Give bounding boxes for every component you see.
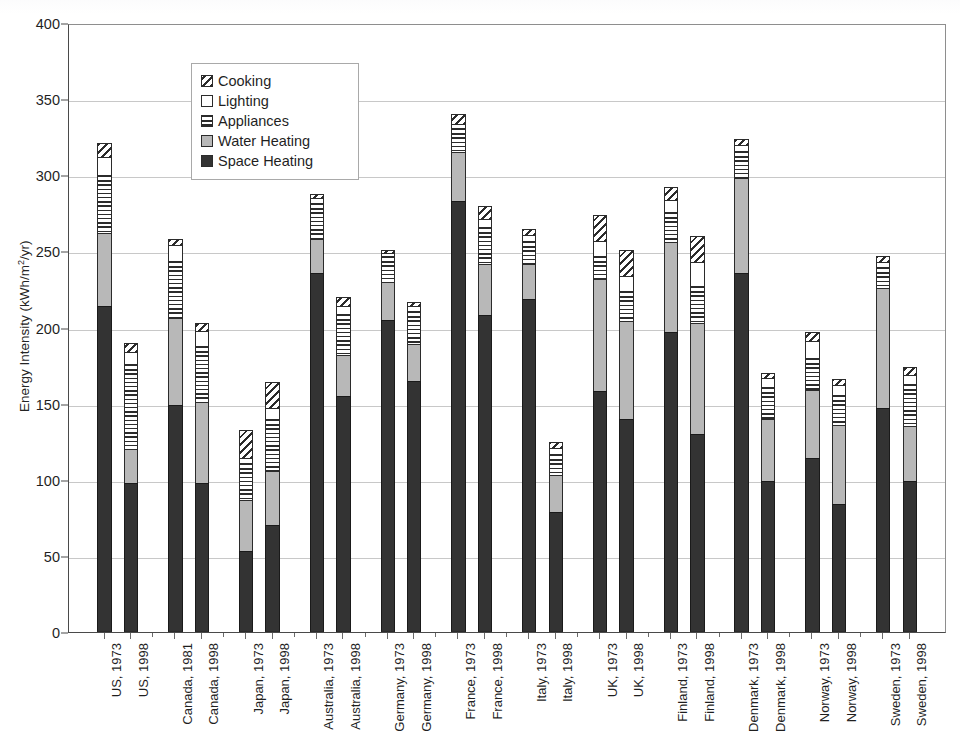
segment-cooking (805, 332, 819, 341)
x-tick-mark (599, 633, 600, 639)
bar-norway-1998[interactable] (832, 379, 846, 632)
segment-appliances (593, 256, 607, 279)
segment-appliances (124, 364, 138, 449)
segment-cooking (451, 114, 465, 123)
segment-cooking (97, 143, 111, 157)
segment-appliances (690, 286, 704, 323)
segment-lighting (832, 385, 846, 394)
x-axis-label-italy-1973: Italy, 1973 (534, 643, 549, 702)
segment-appliances (168, 261, 182, 319)
segment-appliances (97, 175, 111, 233)
x-axis-label-sweden-1998: Sweden, 1998 (914, 643, 929, 726)
x-tick-mark (413, 633, 414, 639)
x-tick-mark-minor (152, 633, 153, 637)
segment-space-heating (265, 525, 279, 632)
segment-space-heating (805, 458, 819, 632)
bar-australia-1998[interactable] (336, 297, 350, 632)
legend-item-space-heating[interactable]: Space Heating (201, 151, 349, 171)
segment-water-heating (168, 318, 182, 405)
legend-item-water-heating[interactable]: Water Heating (201, 131, 349, 151)
x-tick-mark (626, 633, 627, 639)
bar-denmark-1998[interactable] (761, 373, 775, 632)
x-axis-label-sweden-1973: Sweden, 1973 (888, 643, 903, 726)
segment-water-heating (195, 402, 209, 483)
bar-us-1973[interactable] (97, 143, 111, 632)
x-tick-mark (811, 633, 812, 639)
segment-appliances (195, 346, 209, 402)
legend-item-lighting[interactable]: Lighting (201, 91, 349, 111)
bar-sweden-1973[interactable] (876, 256, 890, 632)
x-tick-mark (670, 633, 671, 639)
x-tick-mark (528, 633, 529, 639)
bar-sweden-1998[interactable] (903, 367, 917, 632)
y-tick-mark-400 (61, 24, 68, 25)
legend-swatch-appliances-icon (201, 115, 213, 127)
segment-appliances (310, 203, 324, 240)
x-axis-label-uk-1973: UK, 1973 (605, 643, 620, 697)
bar-denmark-1973[interactable] (734, 139, 748, 632)
bar-germany-1998[interactable] (407, 302, 421, 632)
segment-space-heating (97, 306, 111, 632)
x-tick-mark-minor (789, 633, 790, 637)
segment-appliances (336, 314, 350, 355)
x-tick-mark (316, 633, 317, 639)
x-axis-label-australia-1998: Australia, 1998 (348, 643, 363, 730)
x-axis-label-us-1998: US, 1998 (136, 643, 151, 697)
x-tick-mark (387, 633, 388, 639)
segment-space-heating (734, 273, 748, 632)
segment-cooking (619, 250, 633, 276)
segment-cooking (664, 187, 678, 199)
bar-finland-1973[interactable] (664, 187, 678, 632)
bar-norway-1973[interactable] (805, 332, 819, 632)
bar-canada-1998[interactable] (195, 323, 209, 632)
bar-uk-1998[interactable] (619, 250, 633, 632)
bar-germany-1973[interactable] (381, 250, 395, 632)
segment-lighting (903, 375, 917, 384)
bar-japan-1998[interactable] (265, 382, 279, 632)
bar-france-1973[interactable] (451, 114, 465, 632)
x-tick-mark (457, 633, 458, 639)
segment-appliances (619, 291, 633, 321)
segment-lighting (265, 408, 279, 419)
x-tick-mark (245, 633, 246, 639)
bar-italy-1998[interactable] (549, 442, 563, 632)
segment-space-heating (407, 381, 421, 632)
legend-item-cooking[interactable]: Cooking (201, 71, 349, 91)
segment-space-heating (381, 320, 395, 632)
segment-water-heating (265, 471, 279, 526)
y-tick-label-350: 350 (8, 92, 60, 108)
segment-water-heating (734, 178, 748, 272)
segment-lighting (593, 241, 607, 256)
segment-space-heating (522, 299, 536, 632)
bar-japan-1973[interactable] (239, 430, 253, 632)
y-tick-label-0: 0 (8, 625, 60, 641)
bar-canada-1981[interactable] (168, 239, 182, 632)
x-tick-mark (767, 633, 768, 639)
x-axis-label-norway-1973: Norway, 1973 (817, 643, 832, 722)
x-axis-label-germany-1973: Germany, 1973 (392, 643, 407, 732)
x-tick-mark (909, 633, 910, 639)
segment-appliances (549, 454, 563, 475)
segment-lighting (805, 341, 819, 358)
legend-item-appliances[interactable]: Appliances (201, 111, 349, 131)
segment-water-heating (619, 321, 633, 418)
bar-france-1998[interactable] (478, 206, 492, 632)
x-tick-mark (741, 633, 742, 639)
segment-space-heating (336, 396, 350, 632)
segment-lighting (97, 157, 111, 175)
legend-label: Appliances (218, 114, 289, 129)
x-tick-mark (838, 633, 839, 639)
bar-italy-1973[interactable] (522, 229, 536, 632)
x-tick-mark-minor (223, 633, 224, 637)
segment-space-heating (451, 201, 465, 632)
bar-us-1998[interactable] (124, 343, 138, 632)
segment-cooking (195, 323, 209, 331)
segment-water-heating (407, 344, 421, 381)
segment-appliances (761, 387, 775, 419)
bar-uk-1973[interactable] (593, 215, 607, 632)
segment-lighting (195, 331, 209, 346)
segment-space-heating (549, 512, 563, 632)
bar-finland-1998[interactable] (690, 236, 704, 632)
bar-australia-1973[interactable] (310, 194, 324, 632)
x-tick-mark (882, 633, 883, 639)
